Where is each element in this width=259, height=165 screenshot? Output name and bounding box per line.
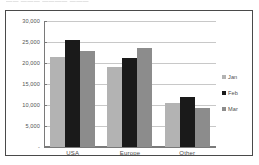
bar[interactable] bbox=[50, 57, 65, 147]
y-axis-labels: -5,00010,00015,00020,00025,00030,000 bbox=[6, 21, 40, 147]
legend-item[interactable]: Mar bbox=[222, 105, 254, 112]
chart-frame: -5,00010,00015,00020,00025,00030,000 USA… bbox=[5, 10, 253, 156]
legend-label: Jan bbox=[228, 74, 237, 80]
y-tick-label: 30,000 bbox=[22, 18, 40, 24]
x-axis-labels: USAEuropeOther bbox=[44, 150, 216, 156]
y-tick-label: 25,000 bbox=[22, 39, 40, 45]
y-tick-label: - bbox=[38, 144, 40, 150]
bar-group bbox=[44, 21, 101, 147]
plot-area bbox=[44, 21, 216, 147]
chart-title-text: —— ——— ———— ——— bbox=[6, 0, 156, 6]
bar[interactable] bbox=[80, 51, 95, 147]
legend-label: Feb bbox=[228, 90, 238, 96]
legend-item[interactable]: Feb bbox=[222, 89, 254, 96]
bar-groups bbox=[44, 21, 216, 147]
bar[interactable] bbox=[107, 67, 122, 147]
y-tick-label: 15,000 bbox=[22, 81, 40, 87]
x-tick-label: Europe bbox=[101, 150, 158, 156]
bar[interactable] bbox=[195, 108, 210, 147]
y-tick-mark bbox=[44, 147, 47, 148]
bar[interactable] bbox=[137, 48, 152, 147]
gridline bbox=[44, 147, 216, 148]
legend-swatch-icon bbox=[222, 107, 226, 111]
bar[interactable] bbox=[65, 40, 80, 147]
legend-swatch-icon bbox=[222, 75, 226, 79]
chart-title-strip: —— ——— ———— ——— bbox=[6, 0, 156, 9]
bar[interactable] bbox=[180, 97, 195, 147]
y-tick-label: 5,000 bbox=[26, 123, 41, 129]
legend-label: Mar bbox=[228, 106, 238, 112]
bar-group bbox=[159, 21, 216, 147]
x-tick-label: Other bbox=[159, 150, 216, 156]
y-tick-label: 10,000 bbox=[22, 102, 40, 108]
bar[interactable] bbox=[165, 103, 180, 147]
x-tick-label: USA bbox=[44, 150, 101, 156]
chart-legend: JanFebMar bbox=[222, 73, 254, 121]
bar[interactable] bbox=[122, 58, 137, 147]
bar-group bbox=[101, 21, 158, 147]
y-tick-label: 20,000 bbox=[22, 60, 40, 66]
legend-swatch-icon bbox=[222, 91, 226, 95]
legend-item[interactable]: Jan bbox=[222, 73, 254, 80]
